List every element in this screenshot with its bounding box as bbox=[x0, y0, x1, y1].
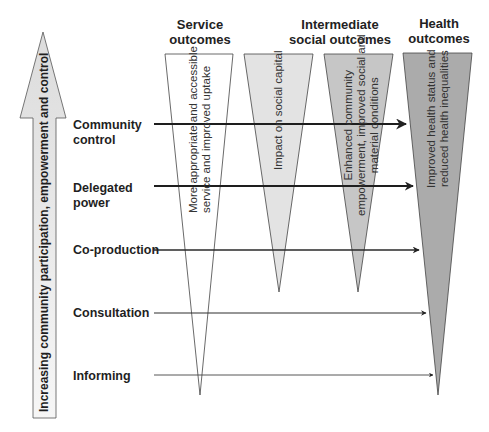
header-health: Health outcomes bbox=[404, 16, 474, 46]
diagram-canvas bbox=[0, 0, 489, 432]
level-informing: Informing bbox=[73, 369, 131, 384]
level-co-production: Co-production bbox=[73, 243, 159, 258]
header-intermediate: Intermediate social outcomes bbox=[270, 17, 410, 47]
service-outcome-text: More appropriate and accessible service … bbox=[187, 46, 213, 213]
empowerment-text: Enhanced community empowerment, improved… bbox=[342, 34, 381, 216]
axis-label: Increasing community participation, empo… bbox=[37, 53, 51, 412]
health-outcome-text: Improved health status and reduced healt… bbox=[425, 49, 451, 188]
level-community-control: Community control bbox=[73, 118, 142, 148]
level-consultation: Consultation bbox=[73, 306, 149, 321]
social-capital-text: Impact on social capital bbox=[272, 50, 285, 170]
header-service: Service outcomes bbox=[160, 17, 240, 47]
level-delegated-power: Delegated power bbox=[73, 181, 133, 211]
